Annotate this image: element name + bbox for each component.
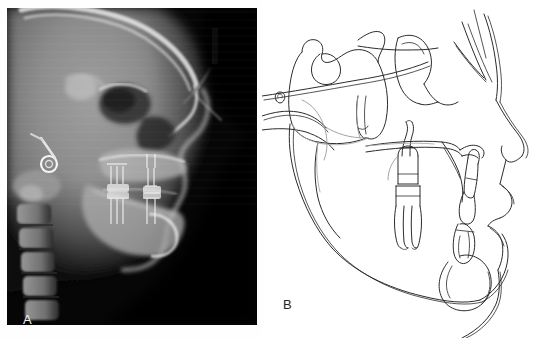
cephalometric-tracing (262, 0, 546, 338)
panel-b-tracing: B (262, 0, 546, 338)
panel-a-label: A (23, 313, 32, 325)
panel-b-label: B (283, 298, 292, 311)
cephalometric-figure: A (0, 0, 546, 338)
radiograph-image (7, 8, 257, 325)
panel-a-radiograph: A (7, 8, 257, 325)
